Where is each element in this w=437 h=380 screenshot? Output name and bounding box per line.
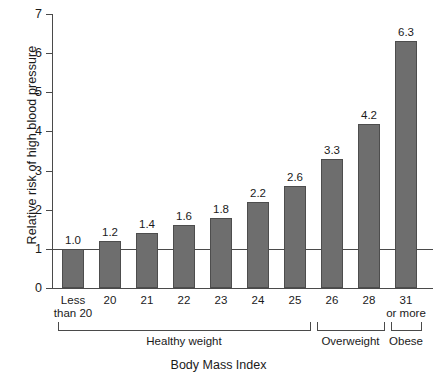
bar-value-label: 4.2 [351,109,387,121]
y-tick-label: 0 [0,282,42,294]
group-bracket [317,322,385,331]
bar-value-label: 3.3 [314,144,350,156]
group-bracket [58,322,311,331]
x-tick-label: 31or more [376,294,436,320]
bar-value-label: 1.6 [166,210,202,222]
y-tick-label: 2 [0,204,42,216]
y-tick-mark [46,131,52,132]
y-tick-label: 1 [0,243,42,255]
y-tick-label: 4 [0,125,42,137]
bar [284,186,306,288]
y-tick-mark [46,14,52,15]
group-bracket [391,322,422,331]
bar [99,241,121,288]
bar [247,202,269,288]
bar [62,249,84,288]
bar-value-label: 1.2 [92,226,128,238]
bar-value-label: 2.2 [240,187,276,199]
y-tick-label: 3 [0,165,42,177]
bar [358,124,380,288]
bar-value-label: 1.0 [55,234,91,246]
x-tick-label-line: or more [376,307,436,320]
bar-value-label: 6.3 [388,26,424,38]
y-tick-mark [46,210,52,211]
y-tick-label: 5 [0,86,42,98]
bar-value-label: 1.8 [203,203,239,215]
bar [173,225,195,288]
bar-value-label: 1.4 [129,218,165,230]
x-tick-label-line: than 20 [43,307,103,320]
group-label: Obese [351,334,437,348]
x-axis-title: Body Mass Index [0,358,437,373]
x-axis-line [52,288,433,289]
bar [395,41,417,288]
x-tick-label-line: 31 [376,294,436,307]
bar [210,218,232,288]
bar-chart: Relative risk of high blood pressure 012… [0,0,437,380]
bar [321,159,343,288]
y-tick-label: 6 [0,47,42,59]
bar-value-label: 2.6 [277,171,313,183]
y-axis-line [52,14,53,289]
y-tick-mark [46,288,52,289]
y-tick-label: 7 [0,8,42,20]
y-tick-mark [46,92,52,93]
y-tick-mark [46,53,52,54]
bar [136,233,158,288]
y-tick-mark [46,171,52,172]
